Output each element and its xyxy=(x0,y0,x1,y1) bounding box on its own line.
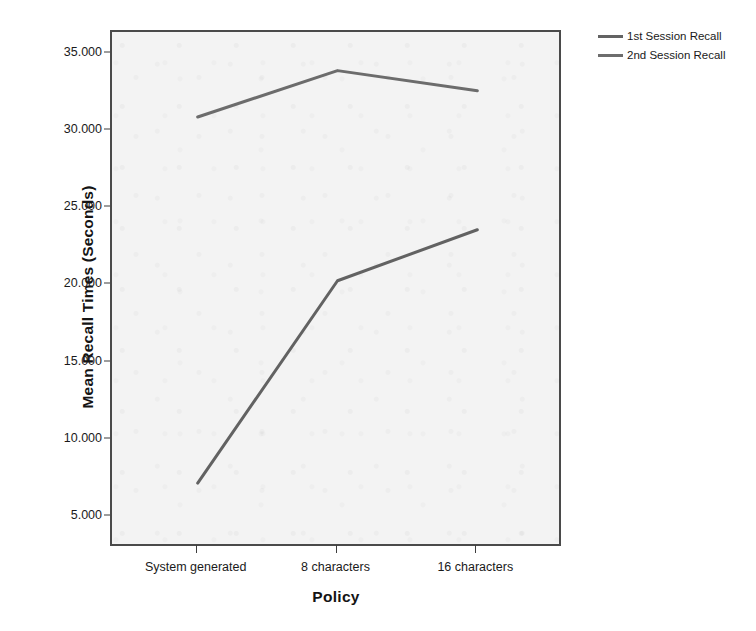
x-axis-tick-label: 16 characters xyxy=(395,560,555,574)
y-axis-tick-label: 20.000 xyxy=(32,276,102,290)
series-line xyxy=(198,71,478,117)
legend-label: 1st Session Recall xyxy=(627,30,722,43)
x-axis-tick-mark xyxy=(336,545,337,553)
y-axis-tick-label: 15.000 xyxy=(32,354,102,368)
legend-label: 2nd Session Recall xyxy=(627,49,725,62)
chart-legend: 1st Session Recall 2nd Session Recall xyxy=(598,28,756,66)
y-axis-tick-label: 35.000 xyxy=(32,45,102,59)
y-axis-tick-label: 10.000 xyxy=(32,431,102,445)
legend-line-swatch-icon xyxy=(598,54,623,57)
x-axis-tick-mark xyxy=(475,545,476,553)
x-axis-tick-mark xyxy=(196,545,197,553)
y-axis-tick-label: 5.000 xyxy=(32,508,102,522)
legend-item-2nd-session-recall: 2nd Session Recall xyxy=(598,47,756,64)
y-axis-tick-label: 30.000 xyxy=(32,122,102,136)
legend-line-swatch-icon xyxy=(598,35,623,38)
x-axis-tick-label: System generated xyxy=(116,560,276,574)
plot-area xyxy=(110,30,561,546)
x-axis-tick-label: 8 characters xyxy=(256,560,416,574)
data-series-layer xyxy=(112,32,563,548)
series-line xyxy=(198,230,478,483)
y-axis-tick-label: 25.000 xyxy=(32,199,102,213)
legend-item-1st-session-recall: 1st Session Recall xyxy=(598,28,756,45)
line-chart-figure: Mean Recall Times (Seconds) 35.00030.000… xyxy=(0,0,756,631)
x-axis-title: Policy xyxy=(110,588,562,606)
